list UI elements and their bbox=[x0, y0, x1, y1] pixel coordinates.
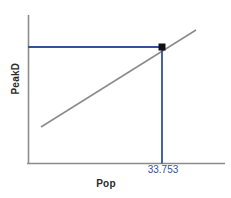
chart-container: PeakD Pop 33.753 bbox=[0, 0, 231, 198]
prediction-point-marker bbox=[159, 44, 166, 51]
x-value-tick-label: 33.753 bbox=[139, 164, 187, 175]
plot-area bbox=[0, 0, 231, 198]
y-axis-title: PeakD bbox=[10, 65, 21, 95]
x-axis-title: Pop bbox=[86, 178, 126, 189]
trend-line bbox=[41, 30, 196, 127]
